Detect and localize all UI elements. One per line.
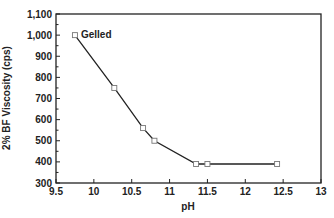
y-tick-label: 1,100 [27, 9, 52, 20]
x-tick-label: 9.5 [49, 186, 63, 197]
x-tick-label: 11.5 [198, 186, 217, 197]
y-tick-label: 500 [35, 135, 52, 146]
x-tick-label: 10.5 [122, 186, 142, 197]
gelled-annotation: Gelled [81, 29, 112, 40]
data-point-marker [152, 138, 157, 143]
x-tick-label: 11 [164, 186, 175, 197]
data-point-marker [205, 161, 210, 166]
data-point-marker [275, 161, 280, 166]
x-tick-label: 12 [240, 186, 252, 197]
y-axis: 3004005006007008009001,0001,100 [27, 9, 60, 189]
x-tick-label: 10 [88, 186, 100, 197]
x-axis-label: pH [181, 201, 194, 212]
data-point-marker [194, 161, 199, 166]
y-tick-label: 700 [35, 93, 52, 104]
y-tick-label: 400 [35, 156, 52, 167]
data-point-marker [112, 85, 117, 90]
y-axis-label: 2% BF Viscosity (cps) [1, 46, 12, 150]
y-tick-label: 1,000 [27, 30, 52, 41]
data-point-marker [72, 33, 77, 38]
x-axis: 9.51010.51111.51212.513 [49, 179, 327, 197]
viscosity-chart: 3004005006007008009001,0001,100 9.51010.… [0, 0, 334, 218]
data-point-marker [141, 126, 146, 131]
y-tick-label: 800 [35, 72, 52, 83]
series-line [75, 35, 277, 164]
y-tick-label: 600 [35, 114, 52, 125]
x-tick-label: 13 [315, 186, 327, 197]
annotations: Gelled [81, 29, 112, 40]
data-series [72, 33, 279, 167]
x-tick-label: 12.5 [273, 186, 293, 197]
y-tick-label: 900 [35, 51, 52, 62]
